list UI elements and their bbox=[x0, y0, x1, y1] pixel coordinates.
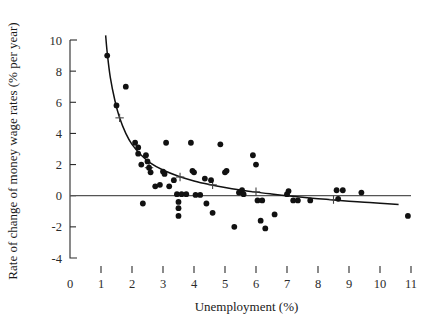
y-tick-label: 6 bbox=[56, 96, 62, 110]
data-point bbox=[359, 190, 365, 196]
data-point bbox=[307, 197, 313, 203]
data-point bbox=[188, 140, 194, 146]
x-tick-label: 11 bbox=[405, 277, 417, 291]
data-point bbox=[176, 205, 182, 211]
data-point bbox=[340, 187, 346, 193]
x-axis-title: Unemployment (%) bbox=[195, 299, 299, 314]
data-point bbox=[123, 84, 129, 90]
x-tick-label: 4 bbox=[191, 277, 198, 291]
data-point bbox=[405, 213, 411, 219]
data-point bbox=[231, 224, 237, 230]
scatter-plot-svg: -4-2024681001234567891011 Unemployment (… bbox=[0, 0, 428, 323]
y-tick-label: 8 bbox=[56, 65, 62, 79]
data-point bbox=[202, 176, 208, 182]
data-point bbox=[241, 191, 247, 197]
data-point bbox=[335, 196, 341, 202]
data-point bbox=[262, 226, 268, 232]
data-point bbox=[171, 177, 177, 183]
data-point bbox=[148, 169, 154, 175]
data-point bbox=[224, 168, 230, 174]
y-tick-label: -2 bbox=[52, 220, 62, 234]
data-point bbox=[191, 169, 197, 175]
data-point bbox=[183, 191, 189, 197]
data-point bbox=[166, 183, 172, 189]
data-point bbox=[157, 182, 163, 188]
data-point bbox=[204, 201, 210, 207]
data-point bbox=[176, 213, 182, 219]
data-point bbox=[138, 162, 144, 168]
data-point bbox=[162, 171, 168, 177]
data-point bbox=[258, 218, 264, 224]
data-point bbox=[140, 201, 146, 207]
y-tick-label: 0 bbox=[56, 189, 62, 203]
data-point bbox=[250, 152, 256, 158]
plot-background bbox=[0, 0, 428, 323]
x-tick-label: 3 bbox=[160, 277, 166, 291]
data-point bbox=[259, 197, 265, 203]
x-tick-label: 7 bbox=[284, 277, 290, 291]
x-tick-label: 6 bbox=[253, 277, 259, 291]
data-point bbox=[114, 103, 120, 109]
x-tick-label: 8 bbox=[315, 277, 321, 291]
data-point bbox=[104, 53, 110, 59]
y-tick-label: 4 bbox=[56, 127, 63, 141]
data-point bbox=[210, 210, 216, 216]
data-point bbox=[143, 152, 149, 158]
data-point bbox=[163, 140, 169, 146]
data-point bbox=[197, 192, 203, 198]
data-point bbox=[253, 162, 259, 168]
data-point bbox=[135, 145, 141, 151]
x-tick-label: 0 bbox=[67, 277, 73, 291]
data-point bbox=[135, 151, 141, 157]
data-point bbox=[145, 159, 151, 165]
x-tick-label: 1 bbox=[98, 277, 104, 291]
x-tick-label: 9 bbox=[346, 277, 352, 291]
data-point bbox=[217, 141, 223, 147]
data-point bbox=[208, 177, 214, 183]
y-axis-title: Rate of change of money wage rates (% pe… bbox=[5, 22, 20, 279]
y-tick-label: 10 bbox=[50, 34, 63, 48]
data-point bbox=[295, 197, 301, 203]
phillips-curve-figure: -4-2024681001234567891011 Unemployment (… bbox=[0, 0, 428, 323]
x-tick-label: 10 bbox=[374, 277, 387, 291]
y-tick-label: 2 bbox=[56, 158, 62, 172]
data-point bbox=[176, 199, 182, 205]
data-point bbox=[286, 188, 292, 194]
x-tick-label: 2 bbox=[129, 277, 135, 291]
y-tick-label: -4 bbox=[52, 252, 63, 266]
x-tick-label: 5 bbox=[222, 277, 228, 291]
data-point bbox=[272, 212, 278, 218]
data-point bbox=[334, 187, 340, 193]
